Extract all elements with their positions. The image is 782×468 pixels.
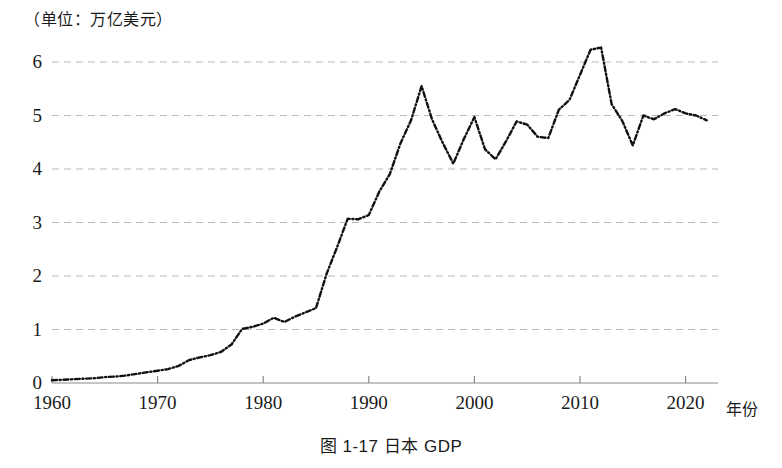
y-tick-label: 4	[16, 159, 42, 178]
gdp-series-line	[52, 48, 707, 381]
x-tick-label: 1990	[334, 393, 404, 412]
y-tick-label: 6	[16, 52, 42, 71]
x-tick-marks-group	[52, 376, 686, 383]
x-axis-title: 年份	[726, 396, 758, 420]
gdp-line-path	[52, 48, 707, 381]
gdp-line-chart	[0, 0, 782, 420]
y-tick-label: 2	[16, 266, 42, 285]
x-tick-label: 1980	[228, 393, 298, 412]
x-tick-label: 1970	[123, 393, 193, 412]
x-tick-label: 2010	[545, 393, 615, 412]
y-tick-label: 0	[16, 373, 42, 392]
y-tick-label: 5	[16, 106, 42, 125]
y-tick-label: 3	[16, 213, 42, 232]
x-tick-label: 2020	[651, 393, 721, 412]
x-tick-label: 1960	[17, 393, 87, 412]
y-tick-label: 1	[16, 320, 42, 339]
gridlines-group	[52, 62, 718, 330]
x-tick-label: 2000	[439, 393, 509, 412]
figure-container: （单位：万亿美元） 0123456 1960197019801990200020…	[0, 0, 782, 468]
figure-caption: 图 1-17 日本 GDP	[0, 432, 782, 457]
chart-plot-area: 0123456 1960197019801990200020102020 年份	[0, 0, 782, 420]
